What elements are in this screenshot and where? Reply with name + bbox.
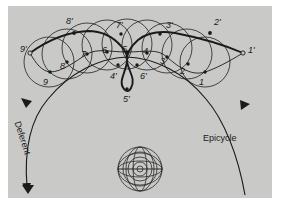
point-marker <box>158 32 161 35</box>
point-marker <box>48 70 51 73</box>
point-marker <box>135 63 138 66</box>
point-marker <box>186 62 189 65</box>
point-label-9: 9 <box>43 78 48 87</box>
figure-container: 1 2 3 4 5 6 7 8 9 1' 2' 3' 4' 5' 6' 7' 8… <box>0 0 282 211</box>
point-marker <box>165 55 168 58</box>
point-label-3: 3 <box>160 57 165 66</box>
point-label-1-prime: 1' <box>248 46 255 55</box>
epicycle-arrowhead-right <box>240 100 250 110</box>
point-marker-open <box>28 51 32 55</box>
point-label-6-prime: 6' <box>140 72 147 81</box>
point-label-3-prime: 3' <box>166 21 173 30</box>
earth-globe <box>118 147 162 191</box>
point-label-8-prime: 8' <box>66 17 73 26</box>
point-label-4-prime: 4' <box>110 72 117 81</box>
point-label-9-prime: 9' <box>20 45 27 54</box>
point-label-2: 2 <box>180 67 185 76</box>
epicycle-deferent-diagram <box>0 0 282 211</box>
point-marker <box>119 32 122 35</box>
epicycle-label: Epicycle <box>203 133 237 143</box>
point-label-5: 5 <box>122 45 127 54</box>
point-marker <box>125 87 128 90</box>
point-marker <box>203 70 206 73</box>
point-label-7: 7 <box>81 50 86 59</box>
point-marker <box>72 31 76 35</box>
point-label-6: 6 <box>102 46 107 55</box>
point-label-5-prime: 5' <box>123 95 130 104</box>
point-label-8: 8 <box>60 62 65 71</box>
deferent-arrowhead-left <box>21 98 32 108</box>
point-label-2-prime: 2' <box>214 18 221 27</box>
point-label-1: 1 <box>199 78 204 87</box>
point-label-4: 4 <box>143 47 148 56</box>
point-label-7-prime: 7' <box>116 21 123 30</box>
point-marker <box>116 63 119 66</box>
point-marker <box>65 60 68 63</box>
point-marker <box>208 31 212 35</box>
deferent-arrowhead-bottom <box>22 185 34 194</box>
point-marker-open <box>241 51 245 55</box>
